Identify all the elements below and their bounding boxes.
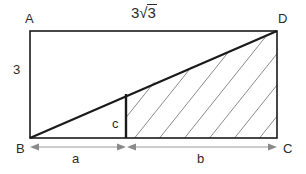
vertex-label-b: B — [16, 142, 25, 155]
left-side-height-label: 3 — [13, 63, 20, 76]
vertex-label-a: A — [25, 12, 34, 25]
dimension-label-a: a — [72, 152, 79, 165]
radical-expression: 3√3 — [131, 4, 157, 20]
top-side-length-label: 3√3 — [131, 4, 157, 20]
dimension-line-b — [127, 144, 277, 151]
vertex-label-c: C — [283, 142, 292, 155]
vertex-label-d: D — [278, 12, 287, 25]
dimension-label-b: b — [197, 152, 204, 165]
diagram-canvas — [0, 0, 306, 174]
dimension-label-c: c — [112, 117, 119, 130]
radicand: 3 — [147, 4, 157, 20]
dimension-line-a — [30, 144, 126, 151]
diagonal-line-bd — [30, 31, 277, 138]
geometry-diagram: 3√3 3 A D B C a b c — [0, 0, 306, 174]
radical-coefficient: 3 — [131, 4, 139, 21]
